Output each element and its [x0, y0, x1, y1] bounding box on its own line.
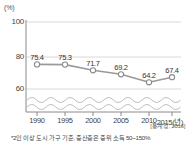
chart-source-citation: [통계청, 2016]	[150, 121, 185, 130]
x-axis-label-1990: 1990	[29, 116, 45, 125]
x-axis-label-2000: 2000	[85, 116, 101, 125]
data-label-1995: 75.3	[58, 53, 71, 62]
data-point-2005	[118, 72, 123, 77]
data-label-2015: 67.4	[165, 66, 178, 75]
data-label-2000: 71.7	[86, 59, 99, 68]
data-label-2005: 69.2	[114, 63, 127, 72]
x-axis-label-1995: 1995	[57, 116, 73, 125]
data-point-2010	[146, 80, 151, 85]
data-point-1995	[62, 62, 67, 67]
data-point-1990	[34, 62, 39, 67]
data-point-2015	[169, 75, 174, 80]
chart-footnote: *2인 이상 도시 가구 기준, 중산층은 중위 소득 50~150%	[11, 133, 150, 142]
data-label-1990: 75.4	[30, 53, 43, 62]
data-label-2010: 64.2	[142, 71, 155, 80]
data-point-2000	[90, 68, 95, 73]
x-axis-label-2005: 2005	[113, 116, 129, 125]
axis-break-wave	[27, 98, 181, 110]
chart-container: (%) 100 80 60	[0, 0, 190, 145]
